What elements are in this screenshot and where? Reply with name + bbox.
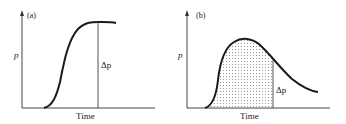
panel-a: (a) p Δp Time	[13, 10, 155, 121]
y-label-b: p	[177, 50, 183, 60]
x-label-b: Time	[240, 111, 259, 121]
x-label-a: Time	[76, 111, 95, 121]
y-axis-arrow-icon	[20, 10, 24, 16]
diagram-canvas: (a) p Δp Time (b) p Δp Time	[0, 0, 346, 124]
panel-b: (b) p Δp Time	[177, 10, 330, 121]
panel-label-a: (a)	[27, 11, 36, 20]
delta-label-a: Δp	[101, 60, 112, 70]
y-label-a: p	[13, 50, 19, 60]
delta-label-b: Δp	[276, 85, 287, 95]
y-axis-arrow-icon	[185, 10, 189, 16]
panel-label-b: (b)	[196, 11, 206, 20]
